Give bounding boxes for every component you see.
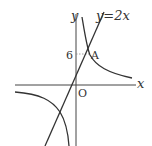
diagram: y y=2x 6 A x O bbox=[0, 0, 152, 146]
line-equation-label: y=2x bbox=[95, 8, 131, 23]
hyperbola-branch-right bbox=[82, 17, 132, 78]
origin-label: O bbox=[78, 87, 87, 100]
line-y-2x bbox=[45, 12, 104, 146]
graph-canvas: y y=2x 6 A x O bbox=[0, 0, 152, 146]
y-tick-6: 6 bbox=[66, 49, 73, 62]
x-axis-label: x bbox=[137, 76, 145, 91]
y-axis-label: y bbox=[70, 8, 79, 23]
point-a-label: A bbox=[90, 49, 100, 62]
hyperbola-branch-left bbox=[15, 92, 69, 146]
